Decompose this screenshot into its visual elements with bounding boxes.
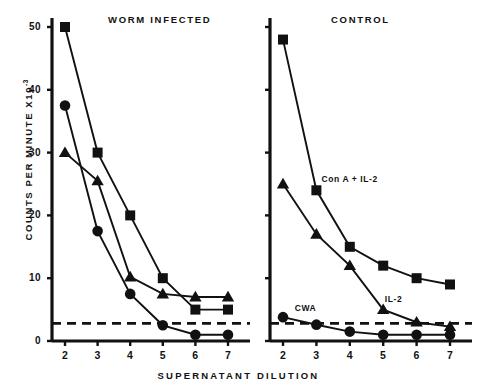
marker-circle-right-4 bbox=[411, 329, 422, 340]
marker-square-right-2 bbox=[345, 242, 355, 252]
x-tick-label-left-3: 3 bbox=[90, 349, 106, 361]
marker-square-left-4 bbox=[190, 305, 200, 315]
marker-circle-left-3 bbox=[158, 320, 169, 331]
marker-triangle-left-2 bbox=[124, 271, 136, 282]
marker-triangle-left-0 bbox=[59, 146, 71, 157]
marker-triangle-left-3 bbox=[157, 288, 169, 299]
marker-circle-left-2 bbox=[125, 289, 136, 300]
x-tick-label-right-6: 6 bbox=[409, 349, 425, 361]
y-tick-label-40: 40 bbox=[19, 84, 41, 95]
marker-circle-right-1 bbox=[311, 319, 322, 330]
x-tick-label-right-3: 3 bbox=[308, 349, 324, 361]
marker-circle-right-2 bbox=[345, 326, 356, 337]
series-layer bbox=[59, 22, 456, 340]
marker-circle-left-1 bbox=[92, 226, 103, 237]
marker-square-left-3 bbox=[158, 273, 168, 283]
axes-layer bbox=[47, 18, 472, 346]
y-tick-label-50: 50 bbox=[19, 21, 41, 32]
series-line-right-circle bbox=[283, 317, 450, 335]
x-tick-label-left-6: 6 bbox=[187, 349, 203, 361]
marker-triangle-right-0 bbox=[277, 178, 289, 189]
x-tick-label-left-5: 5 bbox=[155, 349, 171, 361]
marker-circle-right-5 bbox=[445, 329, 456, 340]
y-tick-label-0: 0 bbox=[19, 335, 41, 346]
marker-square-right-1 bbox=[311, 185, 321, 195]
marker-square-left-5 bbox=[223, 305, 233, 315]
marker-square-right-3 bbox=[378, 261, 388, 271]
series-line-right-square bbox=[283, 40, 450, 285]
marker-square-right-4 bbox=[412, 273, 422, 283]
x-tick-label-left-4: 4 bbox=[122, 349, 138, 361]
marker-square-left-0 bbox=[60, 22, 70, 32]
series-label-cwa: CWA bbox=[295, 303, 317, 313]
figure: COUNTS PER MINUTE X10-3 SUPERNATANT DILU… bbox=[0, 0, 477, 392]
x-tick-label-right-2: 2 bbox=[275, 349, 291, 361]
marker-triangle-right-1 bbox=[310, 228, 322, 239]
y-tick-label-10: 10 bbox=[19, 272, 41, 283]
y-tick-label-30: 30 bbox=[19, 147, 41, 158]
marker-circle-right-3 bbox=[378, 329, 389, 340]
series-label-con-a-il-2: Con A + IL-2 bbox=[321, 174, 377, 184]
x-tick-label-right-4: 4 bbox=[342, 349, 358, 361]
marker-circle-left-5 bbox=[223, 329, 234, 340]
series-line-left-square bbox=[65, 27, 228, 310]
x-tick-label-left-2: 2 bbox=[57, 349, 73, 361]
x-tick-label-right-5: 5 bbox=[375, 349, 391, 361]
marker-square-right-0 bbox=[278, 35, 288, 45]
y-tick-label-20: 20 bbox=[19, 209, 41, 220]
series-line-left-circle bbox=[65, 106, 228, 335]
marker-circle-left-4 bbox=[190, 329, 201, 340]
marker-square-left-2 bbox=[125, 210, 135, 220]
marker-square-right-5 bbox=[445, 279, 455, 289]
marker-circle-right-0 bbox=[278, 312, 289, 323]
series-line-left-triangle bbox=[65, 153, 228, 297]
marker-square-left-1 bbox=[93, 148, 103, 158]
x-tick-label-left-7: 7 bbox=[220, 349, 236, 361]
series-label-il-2: IL-2 bbox=[385, 294, 403, 304]
x-tick-label-right-7: 7 bbox=[442, 349, 458, 361]
marker-circle-left-0 bbox=[60, 100, 71, 111]
plot-canvas bbox=[0, 0, 477, 392]
